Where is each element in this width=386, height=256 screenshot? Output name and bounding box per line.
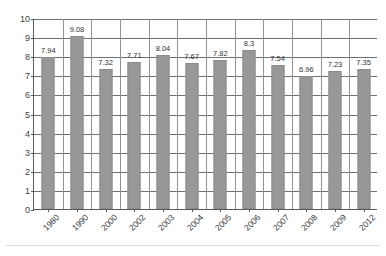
y-tick-mark — [31, 210, 34, 211]
x-tick-mark — [306, 209, 307, 212]
x-axis-label: 2004 — [185, 213, 204, 232]
x-tick-mark — [364, 209, 365, 212]
x-axis-label: 2005 — [214, 213, 233, 232]
bar[interactable] — [99, 69, 112, 209]
plot-area: 012345678910 7.949.087.327.718.047.677.8… — [33, 19, 377, 210]
bar-slot: 7.35 — [349, 19, 378, 209]
bar-value-label: 7.94 — [41, 47, 56, 55]
bar[interactable] — [214, 60, 227, 209]
bar-value-label: 9.08 — [70, 26, 85, 34]
bar-value-label: 7.54 — [270, 55, 285, 63]
bar-slot: 8.3 — [235, 19, 264, 209]
x-axis-label: 2003 — [157, 213, 176, 232]
x-axis-label: 2000 — [99, 213, 118, 232]
bar[interactable] — [328, 71, 341, 209]
y-tick-label: 0 — [25, 206, 30, 215]
x-tick-mark — [163, 209, 164, 212]
bar[interactable] — [156, 55, 169, 209]
y-tick-label: 3 — [25, 148, 30, 157]
x-axis-label: 1980 — [42, 213, 61, 232]
y-tick-label: 10 — [20, 15, 30, 24]
x-axis-label: 2012 — [357, 213, 376, 232]
bar[interactable] — [242, 50, 255, 209]
x-tick-mark — [220, 209, 221, 212]
bar[interactable] — [128, 62, 141, 209]
x-tick-mark — [48, 209, 49, 212]
y-tick-label: 1 — [25, 186, 30, 195]
bar[interactable] — [185, 63, 198, 209]
bar-value-label: 6.96 — [299, 66, 314, 74]
bar[interactable] — [42, 57, 55, 209]
bar-slot: 7.23 — [321, 19, 350, 209]
bar-slot: 8.04 — [149, 19, 178, 209]
bar-value-label: 7.23 — [328, 61, 343, 69]
bar-slot: 7.94 — [34, 19, 63, 209]
bar-slot: 7.82 — [206, 19, 235, 209]
bar[interactable] — [357, 69, 370, 209]
y-tick-label: 9 — [25, 34, 30, 43]
bar-chart: 012345678910 7.949.087.327.718.047.677.8… — [0, 0, 386, 256]
x-axis-label: 2009 — [329, 213, 348, 232]
x-axis-label: 2007 — [271, 213, 290, 232]
x-tick-mark — [278, 209, 279, 212]
y-tick-label: 8 — [25, 53, 30, 62]
bar-slot: 9.08 — [63, 19, 92, 209]
bar-slot: 7.67 — [177, 19, 206, 209]
y-tick-label: 7 — [25, 72, 30, 81]
x-tick-mark — [335, 209, 336, 212]
bar-value-label: 7.35 — [356, 59, 371, 67]
x-tick-mark — [77, 209, 78, 212]
bar-value-label: 7.32 — [98, 59, 113, 67]
bar-slot: 7.54 — [263, 19, 292, 209]
x-tick-mark — [134, 209, 135, 212]
x-axis-label: 2008 — [300, 213, 319, 232]
bar[interactable] — [70, 36, 83, 209]
x-tick-mark — [106, 209, 107, 212]
bar-value-label: 7.82 — [213, 50, 228, 58]
bar-slot: 7.71 — [120, 19, 149, 209]
footer-divider — [6, 245, 380, 246]
x-tick-mark — [192, 209, 193, 212]
bar-value-label: 8.3 — [244, 40, 254, 48]
bar-slot: 7.32 — [91, 19, 120, 209]
bar[interactable] — [300, 76, 313, 209]
bar-value-label: 8.04 — [156, 45, 171, 53]
x-axis-label: 1990 — [71, 213, 90, 232]
y-tick-label: 6 — [25, 91, 30, 100]
bar[interactable] — [271, 65, 284, 209]
bar-value-label: 7.67 — [184, 53, 199, 61]
x-tick-mark — [249, 209, 250, 212]
y-tick-label: 5 — [25, 110, 30, 119]
y-tick-label: 4 — [25, 129, 30, 138]
x-axis-label: 2002 — [128, 213, 147, 232]
bar-slot: 6.96 — [292, 19, 321, 209]
bar-value-label: 7.71 — [127, 52, 142, 60]
x-axis-label: 2006 — [243, 213, 262, 232]
y-tick-label: 2 — [25, 167, 30, 176]
